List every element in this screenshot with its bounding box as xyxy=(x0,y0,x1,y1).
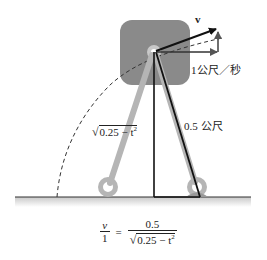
velocity-label: v xyxy=(195,13,201,25)
lhs-fraction: v 1 xyxy=(100,219,110,245)
horizontal-speed-label: 1公尺／秒 xyxy=(191,61,241,77)
left-wheel xyxy=(101,180,116,195)
ladder-velocity-diagram: v 1公尺／秒 0.5 公尺 √0.25 − t2 v 1 = 0.5 √0.2… xyxy=(0,0,267,260)
velocity-formula: v 1 = 0.5 √0.25 − t2 xyxy=(100,218,177,247)
ground xyxy=(15,197,251,207)
ladder-length-label: 0.5 公尺 xyxy=(184,117,223,133)
height-expression-label: √0.25 − t2 xyxy=(92,125,137,140)
rhs-fraction: 0.5 √0.25 − t2 xyxy=(128,218,177,247)
